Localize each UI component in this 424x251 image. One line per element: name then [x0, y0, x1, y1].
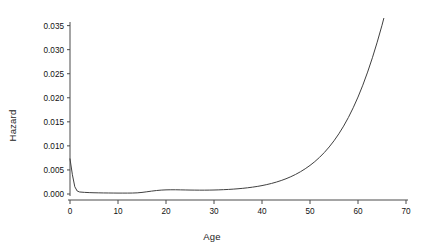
y-tick-label: 0.035 [22, 21, 64, 30]
x-axis-label-text: Age [203, 231, 221, 242]
y-tick-label: 0.030 [22, 45, 64, 54]
x-tick-label: 20 [161, 207, 170, 216]
x-tick-marks [70, 200, 406, 204]
y-axis-label: Hazard [2, 0, 22, 251]
x-tick-label: 50 [305, 207, 314, 216]
x-tick-label: 0 [68, 207, 73, 216]
y-tick-label: 0.020 [22, 93, 64, 102]
x-tick-label: 40 [257, 207, 266, 216]
x-axis-label: Age [0, 231, 424, 242]
x-tick-label: 60 [353, 207, 362, 216]
y-tick-label: 0.005 [22, 165, 64, 174]
x-tick-label: 70 [401, 207, 410, 216]
y-tick-label: 0.000 [22, 190, 64, 199]
x-tick-label: 10 [113, 207, 122, 216]
y-tick-label: 0.015 [22, 117, 64, 126]
y-tick-label: 0.025 [22, 69, 64, 78]
y-tick-label: 0.010 [22, 141, 64, 150]
x-tick-label: 30 [209, 207, 218, 216]
hazard-by-age-chart: Hazard Age 0.0000.0050.0100.0150.0200.02… [0, 0, 424, 251]
hazard-curve [70, 18, 384, 193]
y-axis-label-text: Hazard [7, 110, 18, 142]
